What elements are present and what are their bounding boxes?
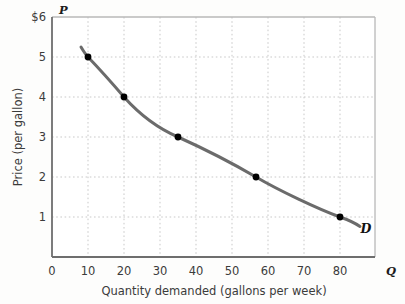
data-point-10-5 [85,54,92,61]
x-tick-label-40: 40 [189,264,204,278]
x-tick-label-20: 20 [117,264,132,278]
data-point-55-2 [253,174,260,181]
y-tick-label-5: 5 [39,50,46,64]
x-tick-label-60: 60 [261,264,276,278]
y-tick-label-2: 2 [39,170,46,184]
x-tick-label-0: 0 [48,264,55,278]
demand-curve-figure: D $6 5 4 3 2 1 0 10 20 30 40 50 60 70 80… [0,0,405,304]
x-tick-label-10: 10 [81,264,96,278]
y-tick-labels: $6 5 4 3 2 1 [31,10,46,224]
chart-canvas: D $6 5 4 3 2 1 0 10 20 30 40 50 60 70 80… [0,0,405,304]
demand-curve-label: D [360,221,372,236]
y-axis-title: Price (per gallon) [11,88,25,187]
data-point-80-1 [337,214,344,221]
data-point-20-4 [121,94,128,101]
y-tick-label-3: 3 [39,130,46,144]
x-axis-symbol: Q [386,264,396,278]
x-tick-label-80: 80 [333,264,348,278]
x-tick-label-30: 30 [153,264,168,278]
x-tick-label-70: 70 [297,264,312,278]
y-tick-label-6: $6 [31,10,46,24]
y-axis-symbol: P [58,3,68,17]
x-axis-title: Quantity demanded (gallons per week) [101,284,326,298]
data-point-35-3 [175,134,182,141]
x-tick-label-50: 50 [225,264,240,278]
y-tick-label-4: 4 [39,90,46,104]
x-tick-labels: 0 10 20 30 40 50 60 70 80 [48,264,347,278]
y-tick-label-1: 1 [39,210,46,224]
